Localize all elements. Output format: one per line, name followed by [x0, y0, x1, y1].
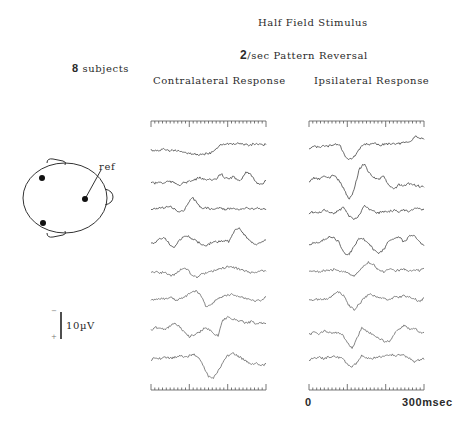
time-ruler	[309, 384, 424, 390]
ipsilateral-trace-5	[309, 262, 424, 277]
time-ruler	[151, 384, 266, 390]
ipsilateral-trace-2	[309, 164, 424, 199]
contralateral-trace-1	[151, 143, 266, 156]
electrode-left-dot	[39, 175, 45, 181]
ipsilateral-trace-8	[309, 354, 424, 367]
ipsilateral-trace-1	[309, 136, 424, 160]
contralateral-trace-7	[151, 316, 266, 337]
time-ruler	[151, 121, 266, 127]
contralateral-trace-6	[151, 290, 266, 306]
contralateral-trace-3	[151, 198, 266, 212]
ipsilateral-trace-7	[309, 325, 424, 349]
contralateral-trace-2	[151, 172, 266, 186]
ipsilateral-trace-3	[309, 205, 424, 219]
eeg-traces	[151, 136, 424, 379]
ipsilateral-trace-6	[309, 291, 424, 310]
ipsilateral-trace-4	[309, 235, 424, 255]
contralateral-trace-5	[151, 266, 266, 278]
contralateral-trace-8	[151, 353, 266, 379]
time-ruler	[309, 121, 424, 127]
figure-graphics	[0, 0, 476, 430]
head-diagram	[23, 159, 113, 237]
reference-electrode-dot	[82, 196, 88, 202]
contralateral-trace-4	[151, 228, 266, 248]
time-axis-rulers	[151, 121, 424, 390]
electrode-right-dot	[40, 220, 46, 226]
